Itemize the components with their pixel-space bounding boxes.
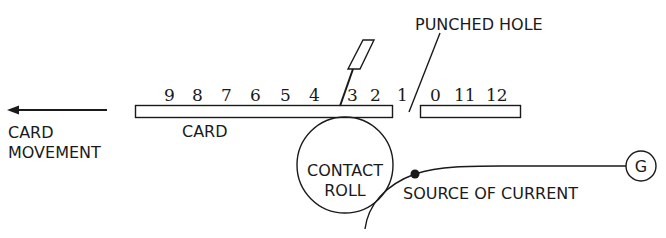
row-digit: 8	[192, 85, 203, 105]
card-movement-arrow	[7, 106, 107, 115]
row-digit: 6	[250, 85, 261, 105]
card-label: CARD	[182, 122, 228, 141]
card-right-segment	[421, 106, 521, 118]
row-digits: 9 8 7 6 5 4 3 2 1 0 11 12	[164, 85, 508, 105]
row-digit: 0	[430, 85, 441, 105]
row-digit: 9	[164, 85, 175, 105]
contact-roll-label-line2: ROLL	[324, 181, 366, 200]
row-digit: 1	[397, 85, 408, 105]
row-digit: 2	[370, 85, 381, 105]
generator-label: G	[635, 157, 647, 176]
punched-hole-label: PUNCHED HOLE	[415, 15, 543, 34]
card-left-segment	[136, 106, 393, 118]
row-digit: 7	[221, 85, 232, 105]
punched-card-diagram: CARD MOVEMENT CARD 9 8 7 6 5 4 3 2 1 0 1…	[0, 0, 666, 238]
contact-roll-label-line1: CONTACT	[307, 161, 383, 180]
row-digit: 3	[347, 85, 358, 105]
row-digit: 12	[486, 85, 508, 105]
row-digit: 11	[454, 85, 476, 105]
card-movement-label-line1: CARD	[8, 123, 54, 142]
contact-point	[411, 170, 420, 179]
source-of-current-label: SOURCE OF CURRENT	[403, 184, 578, 203]
row-digit: 4	[309, 85, 320, 105]
row-digit: 5	[280, 85, 291, 105]
card-movement-label-line2: MOVEMENT	[8, 143, 101, 162]
